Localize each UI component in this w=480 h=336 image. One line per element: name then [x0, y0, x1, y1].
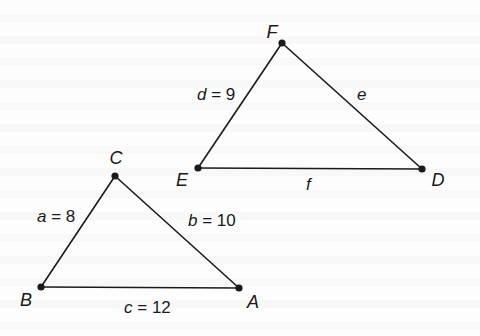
- side-c-eq: =: [133, 298, 152, 317]
- triangle-abc: [41, 176, 239, 288]
- side-c-label: c = 12: [124, 298, 171, 317]
- side-a-value: 8: [66, 207, 75, 226]
- side-e-label: e: [357, 85, 366, 104]
- side-d-label: d = 9: [197, 85, 235, 104]
- side-e: [282, 43, 422, 169]
- side-f: [198, 168, 422, 169]
- side-d-value: 9: [226, 85, 235, 104]
- vertex-b-label: B: [20, 290, 32, 310]
- triangles-figure: A B C a = 8 b = 10 c = 12 D E F d = 9 e …: [0, 0, 480, 336]
- side-b-value: 10: [217, 211, 236, 230]
- side-b-label: b = 10: [188, 211, 236, 230]
- vertex-f-label: F: [267, 22, 279, 42]
- side-a-var: a: [37, 207, 46, 226]
- side-c: [41, 287, 239, 288]
- vertex-c-dot: [111, 172, 118, 179]
- vertex-b-dot: [37, 283, 44, 290]
- side-f-label: f: [306, 175, 313, 194]
- vertex-d-label: D: [432, 170, 445, 190]
- side-b: [115, 176, 239, 288]
- side-b-eq: =: [197, 211, 216, 230]
- vertex-c-label: C: [110, 148, 124, 168]
- side-d-eq: =: [206, 85, 225, 104]
- vertex-a-label: A: [246, 292, 259, 312]
- side-a-eq: =: [46, 207, 65, 226]
- vertex-f-dot: [278, 39, 285, 46]
- triangle-def: [198, 43, 422, 169]
- vertex-e-dot: [194, 164, 201, 171]
- side-a-label: a = 8: [37, 207, 75, 226]
- diagram-canvas: A B C a = 8 b = 10 c = 12 D E F d = 9 e …: [0, 0, 480, 336]
- side-a: [41, 176, 115, 287]
- side-c-value: 12: [152, 298, 171, 317]
- vertex-e-label: E: [176, 170, 189, 190]
- vertex-d-dot: [418, 165, 425, 172]
- side-d: [198, 43, 282, 168]
- vertex-a-dot: [235, 284, 242, 291]
- triangle-def-vertices: [194, 39, 425, 172]
- triangle-abc-vertices: [37, 172, 242, 291]
- side-b-var: b: [188, 211, 197, 230]
